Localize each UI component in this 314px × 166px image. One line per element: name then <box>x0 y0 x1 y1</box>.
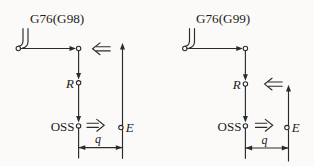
r-point-label: R <box>65 76 74 91</box>
double-arrow-left-icon <box>93 43 111 55</box>
canvas: G76(G98) <box>0 0 314 166</box>
e-point-label: E <box>125 120 134 135</box>
e-point-marker <box>285 125 289 129</box>
r-point-marker <box>76 81 80 85</box>
double-arrow-left-icon <box>265 78 283 90</box>
boring-tool-icon <box>16 29 28 51</box>
e-point-label: E <box>291 120 300 135</box>
diagram-g76-g98: G76(G98) <box>0 0 157 166</box>
boring-tool-icon <box>183 29 195 51</box>
e-point-marker <box>119 125 123 129</box>
top-point-marker <box>243 46 247 50</box>
oss-point-marker <box>76 124 80 128</box>
diagram-title: G76(G99) <box>196 11 250 26</box>
diagram-g76-g99: G76(G99) <box>157 0 314 166</box>
q-label: q <box>95 132 101 146</box>
top-point-marker <box>76 46 80 50</box>
approach-path <box>187 46 248 51</box>
infeed-path <box>76 51 81 158</box>
oss-point-marker <box>243 124 247 128</box>
double-arrow-right-icon <box>256 119 273 131</box>
retract-path <box>119 43 125 159</box>
diagram-canvas-g98: G76(G98) <box>0 0 157 166</box>
q-label: q <box>262 133 268 147</box>
oss-label: OSS <box>218 119 242 134</box>
oss-label: OSS <box>51 119 75 134</box>
retract-path <box>285 85 291 161</box>
infeed-path <box>243 51 248 159</box>
r-point-label: R <box>232 77 241 92</box>
double-arrow-right-icon <box>87 119 104 131</box>
r-point-marker <box>243 82 247 86</box>
diagram-canvas-g99: G76(G99) <box>157 0 314 166</box>
diagram-title: G76(G98) <box>30 11 84 26</box>
approach-path <box>21 46 81 51</box>
